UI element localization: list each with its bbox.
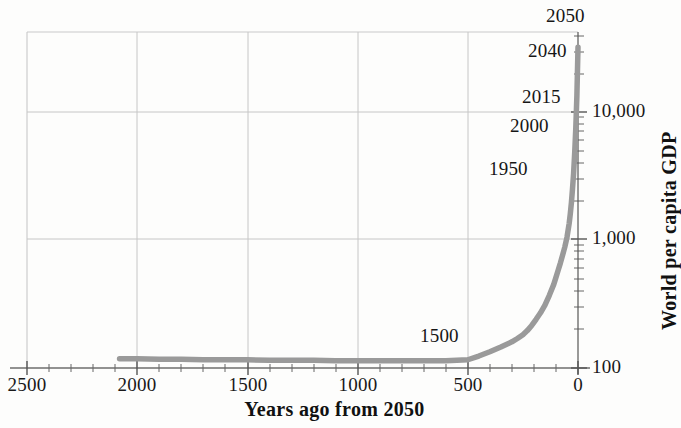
x-tick-label-0: 0 xyxy=(573,374,583,396)
x-tick-label-500: 500 xyxy=(453,374,482,396)
x-tick-label-2500: 2500 xyxy=(8,374,47,396)
annotation-2015: 2015 xyxy=(522,86,561,108)
y-tick-label-1000: 1,000 xyxy=(592,227,636,249)
axis-spines xyxy=(10,32,590,374)
annotation-2040: 2040 xyxy=(528,40,567,62)
gridlines xyxy=(27,32,578,368)
x-axis-title: Years ago from 2050 xyxy=(0,398,669,421)
annotation-1500: 1500 xyxy=(420,325,459,347)
annotation-2000: 2000 xyxy=(510,115,549,137)
annotation-2050: 2050 xyxy=(546,5,585,27)
y-tick-label-10000: 10,000 xyxy=(592,100,645,122)
annotation-1950: 1950 xyxy=(489,158,528,180)
y-tick-label-100: 100 xyxy=(592,356,621,378)
x-tick-label-2000: 2000 xyxy=(118,374,157,396)
x-tick-label-1500: 1500 xyxy=(229,374,268,396)
y-axis-title: World per capita GDP xyxy=(658,132,681,330)
x-tick-label-1000: 1000 xyxy=(339,374,378,396)
gdp-curve xyxy=(120,47,578,360)
